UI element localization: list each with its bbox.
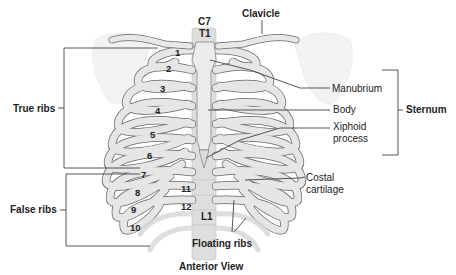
rib-number-3: 3 (160, 84, 165, 94)
clavicle-label: Clavicle (242, 8, 280, 19)
rib-cage-illustration (0, 0, 456, 275)
c7-label: C7 (198, 16, 211, 27)
body-label: Body (333, 104, 356, 115)
rib-number-6: 6 (147, 151, 152, 161)
costal-cartilage-label-line1: Costal (306, 172, 334, 183)
costal-cartilage-label-line2: cartilage (306, 184, 344, 195)
sternum-label: Sternum (406, 104, 447, 115)
xiphoid-label-line1: Xiphoid (333, 121, 366, 132)
rib-number-11: 11 (181, 184, 191, 194)
diagram-title: Anterior View (179, 261, 243, 272)
rib-number-10: 10 (130, 223, 141, 233)
l1-label: L1 (201, 211, 213, 222)
rib-number-2: 2 (166, 64, 171, 74)
false-ribs-label: False ribs (10, 204, 57, 215)
rib-number-12: 12 (181, 202, 192, 212)
t1-label: T1 (199, 28, 211, 39)
rib-number-4: 4 (155, 106, 160, 116)
rib-cage-diagram: C7 T1 L1 1 2 3 4 5 6 7 8 9 10 11 12 Clav… (0, 0, 456, 275)
rib-number-5: 5 (150, 130, 155, 140)
manubrium-label: Manubrium (332, 83, 382, 94)
rib-number-7: 7 (141, 170, 146, 180)
floating-ribs-label: Floating ribs (192, 238, 252, 249)
xiphoid-label-line2: process (333, 133, 368, 144)
ribs-right (216, 50, 302, 250)
rib-number-1: 1 (175, 48, 180, 58)
true-ribs-label: True ribs (13, 103, 55, 114)
rib-number-9: 9 (131, 205, 136, 215)
rib-number-8: 8 (135, 188, 140, 198)
